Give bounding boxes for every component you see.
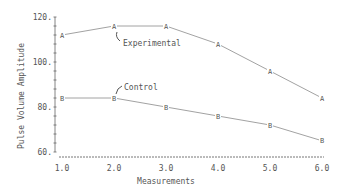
y-tick-label: 80. — [38, 103, 52, 112]
pointer-experimental — [116, 32, 120, 41]
annotation-experimental: Experimental — [116, 32, 181, 48]
data-point-marker: B — [60, 95, 64, 103]
x-tick-label: 1.0 — [55, 164, 70, 173]
series-experimental: AAAAAA — [59, 22, 325, 103]
x-tick-label: 5.0 — [263, 164, 278, 173]
data-point-marker: B — [164, 104, 168, 112]
line-chart: 120.100.80.60. 1.02.03.04.05.06.0 AAAAAA… — [0, 0, 344, 191]
data-point-marker: B — [216, 113, 220, 121]
label-experimental: Experimental — [123, 39, 181, 48]
y-tick-label: 60. — [38, 148, 52, 157]
x-tick-label: 3.0 — [159, 164, 174, 173]
x-tick-label: 4.0 — [211, 164, 226, 173]
series-lines: AAAAAABBBBBB — [59, 22, 325, 145]
x-axis-title: Measurements — [137, 177, 195, 186]
x-tick-label: 2.0 — [107, 164, 122, 173]
data-point-marker: B — [268, 122, 272, 130]
y-axis: 120.100.80.60. — [33, 13, 57, 157]
annotation-control: Control — [116, 83, 158, 94]
series-line — [62, 98, 322, 141]
pointer-control — [116, 86, 122, 94]
x-axis: 1.02.03.04.05.06.0 — [55, 157, 330, 173]
label-control: Control — [124, 83, 158, 92]
y-tick-label: 100. — [33, 58, 52, 67]
data-point-marker: B — [320, 137, 324, 145]
x-tick-label: 6.0 — [315, 164, 330, 173]
series-line — [62, 26, 322, 98]
y-tick-label: 120. — [33, 13, 52, 22]
data-point-marker: B — [112, 95, 116, 103]
y-axis-title: Pulse Volume Amplitude — [17, 43, 26, 149]
series-control: BBBBBB — [59, 94, 325, 145]
